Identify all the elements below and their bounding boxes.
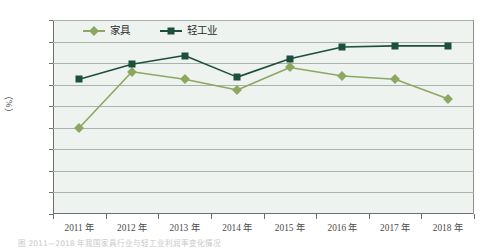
x-tick-mark — [474, 214, 475, 219]
data-point-marker — [444, 42, 451, 49]
x-tick-label: 2016 年 — [327, 223, 357, 233]
x-tick-label: 2014 年 — [222, 223, 252, 233]
data-point-marker — [286, 55, 293, 62]
x-tick-mark — [158, 214, 159, 219]
legend-item-furniture[interactable]: 家具 — [83, 25, 130, 36]
x-tick-mark — [369, 214, 370, 219]
x-tick-mark — [211, 214, 212, 219]
data-point-marker — [181, 52, 188, 59]
series-layer — [53, 20, 474, 214]
legend-label-furniture: 家具 — [110, 25, 130, 36]
x-tick-mark — [316, 214, 317, 219]
x-tick-mark — [264, 214, 265, 219]
y-axis-title: （%） — [4, 103, 15, 117]
data-point-marker — [392, 42, 399, 49]
data-point-marker — [234, 74, 241, 81]
legend-item-light-industry[interactable]: 轻工业 — [160, 25, 217, 36]
square-marker-icon — [168, 27, 175, 34]
data-point-marker — [76, 76, 83, 83]
x-tick-label: 2017 年 — [380, 223, 410, 233]
x-tick-mark — [106, 214, 107, 219]
x-tick-label: 2011 年 — [65, 223, 95, 233]
plot-area: 6.86.66.46.265.85.65.45.25 2011 年2012 年2… — [53, 20, 474, 214]
data-point-marker — [128, 61, 135, 68]
data-point-marker — [339, 43, 346, 50]
x-tick-label: 2015 年 — [275, 223, 305, 233]
x-tick-label: 2018 年 — [433, 223, 463, 233]
diamond-marker-icon — [89, 26, 99, 36]
x-tick-label: 2012 年 — [117, 223, 147, 233]
x-tick-label: 2013 年 — [170, 223, 200, 233]
legend-label-light-industry: 轻工业 — [187, 25, 217, 36]
x-tick-mark — [53, 214, 54, 219]
legend-line-furniture — [83, 30, 105, 32]
figure-caption: 图 2011—2018 年我国家具行业与轻工业利润率变化情况 — [18, 239, 468, 248]
chart-legend: 家具 轻工业 — [77, 24, 223, 37]
x-tick-mark — [421, 214, 422, 219]
legend-line-light-industry — [160, 30, 182, 32]
chart-figure: （%） 6.86.66.46.265.85.65.45.25 2011 年201… — [0, 0, 482, 250]
